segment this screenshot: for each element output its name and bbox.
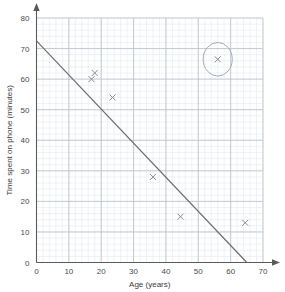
line-of-best-fit bbox=[37, 41, 247, 263]
data-point-6 bbox=[242, 220, 248, 226]
y-tick-20: 20 bbox=[21, 197, 30, 206]
x-tick-50: 50 bbox=[194, 267, 203, 276]
x-tick-10: 10 bbox=[64, 267, 73, 276]
x-tick-30: 30 bbox=[129, 267, 138, 276]
chart-canvas: 01020304050607001020304050607080 Age (ye… bbox=[0, 0, 285, 292]
y-tick-70: 70 bbox=[21, 45, 30, 54]
x-tick-70: 70 bbox=[259, 267, 268, 276]
y-tick-10: 10 bbox=[21, 228, 30, 237]
y-tick-40: 40 bbox=[21, 136, 30, 145]
x-tick-20: 20 bbox=[97, 267, 106, 276]
x-tick-40: 40 bbox=[161, 267, 170, 276]
y-tick-30: 30 bbox=[21, 167, 30, 176]
y-tick-80: 80 bbox=[21, 14, 30, 23]
y-tick-60: 60 bbox=[21, 75, 30, 84]
x-axis-title-text: Age (years) bbox=[129, 280, 171, 289]
x-tick-60: 60 bbox=[226, 267, 235, 276]
y-axis-title-text: Time spent on phone (minutes) bbox=[5, 85, 14, 196]
y-tick-0: 0 bbox=[25, 259, 30, 268]
x-tick-0: 0 bbox=[34, 267, 39, 276]
y-tick-50: 50 bbox=[21, 106, 30, 115]
axis-titles: Age (years)Time spent on phone (minutes) bbox=[5, 85, 171, 289]
data-point-4 bbox=[177, 214, 183, 220]
trend-line bbox=[37, 41, 247, 263]
scatter-chart: 01020304050607001020304050607080 Age (ye… bbox=[0, 0, 285, 292]
